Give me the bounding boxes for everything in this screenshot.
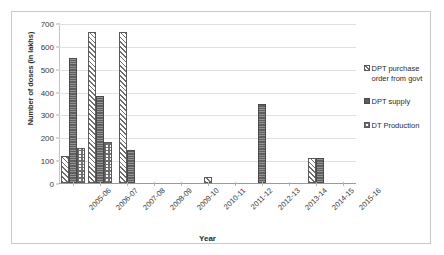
x-tick-mark (343, 182, 344, 186)
bar[interactable] (308, 158, 316, 183)
x-tick-mark (235, 182, 236, 186)
bar[interactable] (88, 32, 96, 183)
x-tick-label: 2007-08 (141, 186, 167, 212)
bar-group (194, 23, 221, 183)
chart-frame: Number of doses (in lakhs) 0100200300400… (11, 11, 431, 244)
bar[interactable] (96, 96, 104, 183)
chart-legend: DPT purchase order from govtDPT supplyDT… (364, 64, 426, 144)
bar-group (329, 23, 356, 183)
x-tick-label: 2009-10 (195, 186, 221, 212)
x-tick-label: 2010-11 (221, 186, 246, 211)
plot-area: 0100200300400500600700 (59, 23, 356, 184)
y-tick-label: 0 (14, 180, 54, 189)
legend-swatch-icon (364, 98, 370, 104)
bar[interactable] (104, 142, 112, 183)
legend-label: DPT purchase order from govt (372, 64, 427, 83)
x-tick-labels: 2005-062006-072007-082008-092009-102010-… (59, 186, 356, 232)
bar-group (167, 23, 194, 183)
x-tick-mark (100, 182, 101, 186)
x-tick-mark (73, 182, 74, 186)
x-tick-label: 2005-06 (87, 186, 113, 212)
y-tick-label: 600 (14, 42, 54, 51)
bar[interactable] (77, 148, 85, 183)
bar[interactable] (127, 150, 135, 183)
bar-group (140, 23, 167, 183)
y-tick-label: 300 (14, 111, 54, 120)
bar-group (221, 23, 248, 183)
x-tick-mark (127, 182, 128, 186)
x-tick-label: 2013-14 (303, 186, 329, 212)
y-tick-label: 200 (14, 134, 54, 143)
x-tick-label: 2012-13 (276, 186, 302, 212)
legend-item[interactable]: DPT purchase order from govt (364, 64, 426, 83)
y-tick-label: 500 (14, 65, 54, 74)
bar-group (302, 23, 329, 183)
bar-group (275, 23, 302, 183)
x-tick-mark (289, 182, 290, 186)
y-tick-label: 100 (14, 157, 54, 166)
y-tick-label: 700 (14, 20, 54, 29)
legend-swatch-icon (364, 122, 370, 128)
x-axis-title: Year (59, 234, 356, 243)
x-tick-mark (262, 182, 263, 186)
legend-item[interactable]: DPT supply (364, 97, 426, 107)
y-tick-mark (56, 184, 59, 185)
bar[interactable] (61, 156, 69, 183)
bar[interactable] (69, 58, 77, 183)
bar[interactable] (316, 158, 324, 183)
x-tick-label: 2015-16 (357, 186, 383, 212)
bar[interactable] (258, 104, 266, 183)
x-tick-mark (316, 182, 317, 186)
legend-swatch-icon (364, 65, 370, 71)
bar-group (248, 23, 275, 183)
bar[interactable] (119, 32, 127, 183)
bar-group (59, 23, 86, 183)
x-tick-label: 2006-07 (114, 186, 140, 212)
legend-item[interactable]: DT Production (364, 121, 426, 131)
legend-label: DPT supply (372, 97, 411, 107)
bar-group (86, 23, 113, 183)
y-tick-label: 400 (14, 88, 54, 97)
x-tick-label: 2014-15 (330, 186, 356, 212)
x-tick-mark (154, 182, 155, 186)
x-tick-mark (208, 182, 209, 186)
bar-group (113, 23, 140, 183)
x-tick-mark (181, 182, 182, 186)
x-tick-label: 2011-12 (248, 186, 273, 211)
legend-label: DT Production (372, 121, 420, 131)
x-tick-label: 2008-09 (168, 186, 194, 212)
y-axis-title: Number of doses (in lakhs) (26, 9, 35, 149)
